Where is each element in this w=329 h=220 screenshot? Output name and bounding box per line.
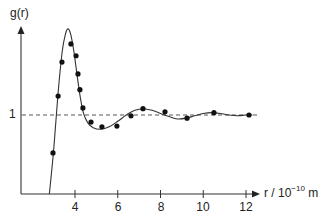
y-axis-label: g(r) [10,6,29,20]
data-point [59,59,64,64]
x-tick-label: 6 [115,200,122,214]
data-point [75,71,80,76]
data-point [77,87,82,92]
data-point [99,124,104,129]
theory-curve [49,29,252,194]
data-point [128,113,133,118]
x-tick-label: 4 [72,200,79,214]
x-axis-arrow-icon [252,191,260,198]
data-point [184,116,189,121]
x-tick-label: 8 [158,200,165,214]
data-point [211,110,216,115]
data-point [56,93,61,98]
data-point [80,105,85,110]
data-point [50,150,55,155]
data-point [68,41,73,46]
data-point [246,112,251,117]
x-axis-label: r / 10−10 m [264,186,318,200]
x-label-unit: m [305,186,318,200]
data-point [140,106,145,111]
data-point [73,53,78,58]
x-label-exponent: −10 [291,184,305,193]
x-tick-label: 12 [239,200,252,214]
y-axis-arrow-icon [18,26,25,34]
y-tick-label-1: 1 [9,107,16,121]
data-point [114,123,119,128]
data-point [162,109,167,114]
x-tick-label: 10 [196,200,209,214]
data-point [88,120,93,125]
x-label-prefix: r / 10 [264,186,291,200]
